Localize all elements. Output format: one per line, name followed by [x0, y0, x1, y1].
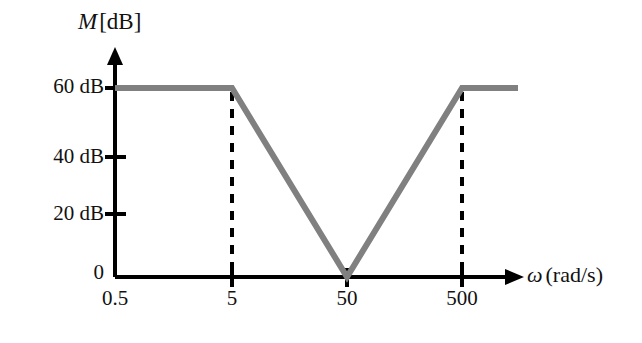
- x-tick-label-5: 5: [192, 288, 272, 309]
- y-axis-arrowhead: [107, 47, 123, 65]
- x-tick-label-50: 50: [307, 288, 387, 309]
- y-axis-title: M[dB]: [78, 10, 141, 33]
- y-tick-label-0db: 0: [18, 262, 104, 283]
- y-axis-title-unit: [dB]: [99, 9, 141, 34]
- y-tick-label-20db: 20 dB: [18, 203, 104, 224]
- y-axis-title-symbol: M: [78, 9, 99, 34]
- x-axis-title-unit: (rad/s): [546, 262, 603, 287]
- x-axis-title-symbol: ω: [527, 262, 546, 287]
- bode-magnitude-figure: M[dB] 60 dB 40 dB 20 dB 0 0.5 5 50 500 ω…: [0, 0, 642, 343]
- x-tick-label-0p5: 0.5: [75, 288, 155, 309]
- magnitude-asymptote-curve: [115, 88, 518, 277]
- x-axis-arrowhead: [505, 269, 524, 285]
- x-tick-label-500: 500: [422, 288, 502, 309]
- x-axis-title: ω(rad/s): [527, 264, 603, 286]
- y-tick-label-40db: 40 dB: [18, 146, 104, 167]
- guide-lines: [232, 92, 462, 275]
- y-axis: [107, 47, 123, 277]
- y-tick-label-60db: 60 dB: [18, 76, 104, 97]
